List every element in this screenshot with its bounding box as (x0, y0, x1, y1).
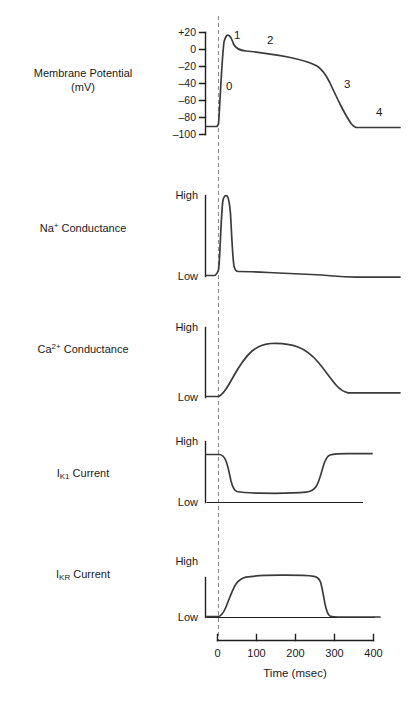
phase-annotation-3: 3 (344, 78, 350, 90)
xtick-1: 100 (247, 647, 265, 659)
mp-ytick-4: –60 (178, 94, 196, 106)
xtick-3: 300 (325, 647, 343, 659)
phase-annotation-0: 0 (226, 80, 232, 92)
panel-ik1-current: High Low (175, 435, 372, 508)
mp-ytick-6: –100 (173, 128, 197, 140)
ikr-current-trace (206, 575, 380, 617)
ca-conductance-trace (206, 343, 400, 396)
panel-membrane-potential: +20 0 –20 –40 –60 –80 –100 1 2 0 3 4 (173, 26, 400, 140)
ikr-ytick-low: Low (178, 611, 198, 623)
ik1-current-trace (206, 454, 372, 494)
na-ytick-low: Low (178, 270, 198, 282)
panel-ca-conductance: High Low (175, 321, 400, 403)
phase-annotation-1: 1 (234, 29, 240, 41)
phase-annotation-2: 2 (267, 34, 273, 46)
mp-ytick-3: –40 (178, 77, 196, 89)
ca-ytick-low: Low (178, 391, 198, 403)
ca-ytick-high: High (175, 321, 198, 333)
membrane-potential-trace (206, 35, 400, 127)
xtick-0: 0 (214, 647, 220, 659)
panel-na-conductance: High Low (175, 189, 400, 282)
x-axis-title: Time (msec) (263, 667, 327, 679)
ikr-ytick-high: High (175, 555, 198, 567)
xtick-4: 400 (364, 647, 382, 659)
mp-ytick-5: –80 (178, 111, 196, 123)
mp-ytick-2: –20 (178, 60, 196, 72)
na-conductance-trace (206, 196, 400, 277)
panel-ikr-current: High Low (175, 555, 380, 623)
mp-y-ticks (200, 33, 206, 135)
x-axis: 0 100 200 300 400 Time (msec) (214, 635, 382, 680)
ik1-ytick-high: High (175, 435, 198, 447)
xtick-2: 200 (286, 647, 304, 659)
mp-ytick-1: 0 (190, 43, 196, 55)
phase-annotation-4: 4 (376, 106, 383, 118)
ik1-ytick-low: Low (178, 496, 198, 508)
mp-ytick-0: +20 (178, 26, 196, 38)
na-ytick-high: High (175, 189, 198, 201)
figure-canvas: +20 0 –20 –40 –60 –80 –100 1 2 0 3 4 Hig… (0, 0, 413, 702)
x-axis-ticks (218, 635, 374, 641)
